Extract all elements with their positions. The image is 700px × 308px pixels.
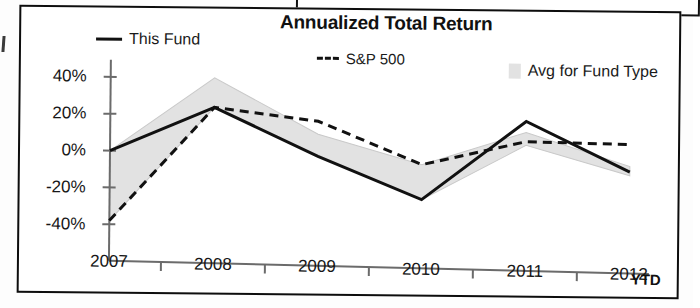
chart-svg xyxy=(89,68,651,248)
chart-title: Annualized Total Return xyxy=(221,11,551,36)
solid-line-swatch-icon xyxy=(96,37,122,40)
x-axis-tick-label: 2010 xyxy=(402,259,440,280)
page-margin-mark-artifact xyxy=(1,36,5,52)
legend-item-sp-500: S&P 500 xyxy=(317,50,405,68)
plot-area xyxy=(89,68,651,248)
avg-fund-type-band xyxy=(109,77,630,226)
y-axis-tick-label: 0% xyxy=(24,140,86,161)
dashed-line-swatch-icon xyxy=(317,57,339,60)
x-axis-tick-label: 2011 xyxy=(506,262,543,283)
x-axis-tick-label: 2007 xyxy=(90,251,128,272)
y-axis-tick-label: 20% xyxy=(24,103,86,124)
x-axis-labels: 200720082009201020112012 xyxy=(89,252,689,288)
legend-item-this-fund: This Fund xyxy=(96,30,200,49)
chart-inner: Annualized Total Return This Fund S&P 50… xyxy=(19,7,680,297)
legend-label-sp-500: S&P 500 xyxy=(346,50,405,68)
legend-label-this-fund: This Fund xyxy=(129,30,200,49)
y-axis-tick-label: 40% xyxy=(25,66,87,87)
y-axis-tick-label: -40% xyxy=(23,213,85,234)
x-axis-tick-label: 2009 xyxy=(298,257,336,278)
y-axis-tick-label: -20% xyxy=(24,177,86,198)
x-axis-ytd-label: YTD xyxy=(631,271,661,288)
chart-frame: Annualized Total Return This Fund S&P 50… xyxy=(17,5,682,299)
x-axis-tick-label: 2008 xyxy=(194,254,232,275)
y-axis-labels: 40%20%0%-20%-40% xyxy=(19,67,87,243)
